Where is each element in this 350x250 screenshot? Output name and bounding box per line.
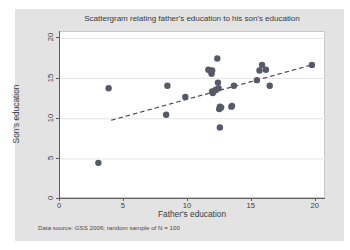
x-axis-line <box>59 198 325 199</box>
data-point <box>215 85 221 91</box>
data-point <box>163 112 169 118</box>
data-point <box>263 67 269 73</box>
data-point <box>217 124 223 130</box>
y-axis-line <box>59 31 60 198</box>
scatter-plot-svg <box>60 32 326 199</box>
chart-title: Scattergram relating father's education … <box>59 14 325 23</box>
data-point <box>209 67 215 73</box>
data-point <box>215 79 221 85</box>
y-tick-mark-0 <box>56 198 59 199</box>
data-point <box>105 85 111 91</box>
gridlines-group <box>60 38 326 158</box>
chart-footnote: Data source: GSS 2006; random sample of … <box>38 224 180 231</box>
data-point <box>182 94 188 100</box>
data-point <box>229 103 235 109</box>
y-tick-label-20: 20 <box>46 33 55 41</box>
y-tick-mark-10 <box>56 118 59 119</box>
y-tick-label-0: 0 <box>46 196 55 200</box>
data-points-group <box>95 55 315 166</box>
data-point <box>267 83 273 89</box>
chart-screenshot: Scattergram relating father's education … <box>0 0 350 250</box>
data-point <box>95 160 101 166</box>
data-point <box>309 62 315 68</box>
y-tick-mark-15 <box>56 78 59 79</box>
y-tick-label-15: 15 <box>46 73 55 81</box>
x-axis-title: Father's education <box>59 209 325 219</box>
data-point <box>214 55 220 61</box>
data-point <box>256 67 262 73</box>
y-tick-mark-5 <box>56 158 59 159</box>
data-point <box>218 104 224 110</box>
y-axis-title: Son's education <box>11 85 21 144</box>
data-point <box>231 83 237 89</box>
y-tick-mark-20 <box>56 37 59 38</box>
y-tick-label-5: 5 <box>46 156 55 160</box>
data-point <box>164 83 170 89</box>
data-point <box>254 77 260 83</box>
plot-area <box>59 31 325 198</box>
y-tick-label-10: 10 <box>46 113 55 121</box>
